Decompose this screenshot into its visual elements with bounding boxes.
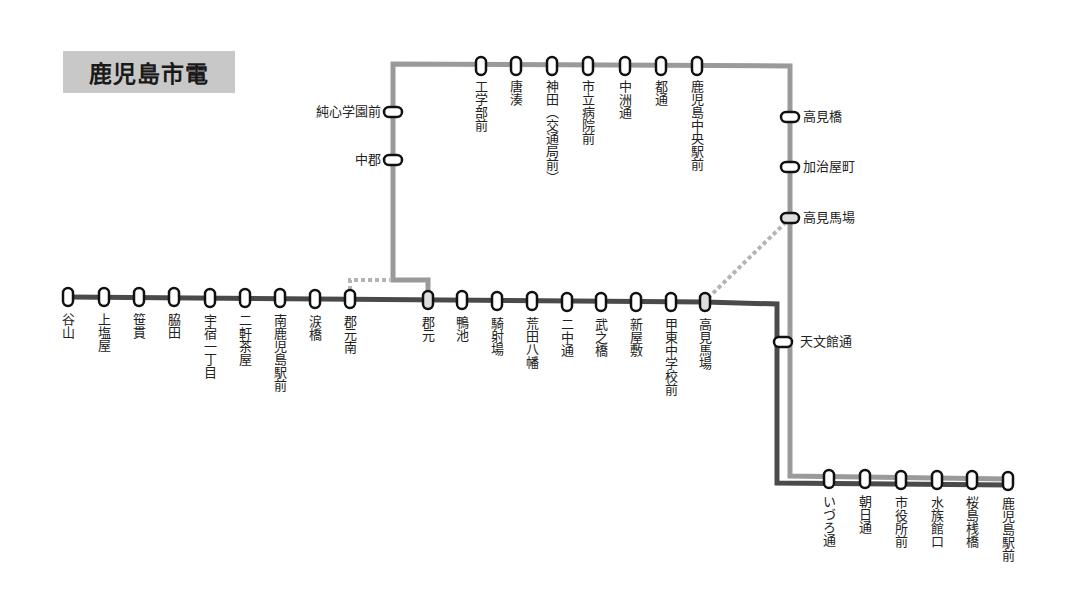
transfer-link-korimoto: [350, 280, 390, 290]
station-label[interactable]: 工学部前: [473, 80, 488, 132]
station-marker[interactable]: [562, 293, 572, 311]
station-marker[interactable]: [476, 57, 486, 75]
station-marker[interactable]: [547, 57, 557, 75]
station-label[interactable]: 市役所前: [893, 496, 908, 548]
station-marker[interactable]: [63, 288, 73, 306]
station-label[interactable]: 騎射場: [489, 317, 504, 356]
station-marker[interactable]: [824, 470, 834, 488]
station-label[interactable]: 中洲通: [617, 80, 632, 119]
station-marker[interactable]: [656, 57, 666, 75]
station-marker[interactable]: [692, 57, 702, 75]
station-marker[interactable]: [345, 290, 355, 308]
station-marker[interactable]: [511, 57, 521, 75]
station-label[interactable]: 南鹿児島駅前: [272, 314, 287, 392]
station-marker[interactable]: [781, 162, 799, 172]
station-label[interactable]: 新屋敷: [628, 318, 643, 357]
station-marker[interactable]: [631, 293, 641, 311]
station-label[interactable]: 荒田八幡: [524, 317, 539, 369]
station-label[interactable]: 水族館口: [929, 496, 944, 548]
transfer-link-takamibaba: [708, 222, 786, 298]
station-label[interactable]: 桜島桟橋: [964, 496, 979, 548]
station-marker[interactable]: [527, 292, 537, 310]
station-label[interactable]: 朝日通: [857, 495, 872, 534]
station-label[interactable]: 武之橋: [593, 318, 608, 357]
station-marker[interactable]: [932, 471, 942, 489]
station-marker[interactable]: [774, 337, 792, 347]
station-marker[interactable]: [860, 470, 870, 488]
station-marker[interactable]: [169, 288, 179, 306]
station-marker[interactable]: [384, 107, 402, 117]
station-label[interactable]: 脇田: [166, 313, 181, 339]
station-label[interactable]: 谷山: [60, 313, 75, 339]
station-label[interactable]: 上塩屋: [96, 313, 111, 352]
station-marker[interactable]: [583, 57, 593, 75]
station-label[interactable]: 宇宿一丁目: [202, 314, 217, 379]
station-label[interactable]: 涙橋: [307, 315, 322, 341]
station-label[interactable]: 郡元南: [342, 315, 357, 354]
station-marker[interactable]: [423, 291, 433, 309]
station-marker[interactable]: [134, 288, 144, 306]
station-label[interactable]: 鹿児島中央駅前: [689, 80, 704, 171]
station-marker[interactable]: [596, 293, 606, 311]
station-marker[interactable]: [240, 289, 250, 307]
station-label[interactable]: 二中通: [559, 318, 574, 357]
station-label[interactable]: 甲東中学校前: [663, 318, 678, 396]
station-marker[interactable]: [620, 57, 630, 75]
station-marker[interactable]: [99, 288, 109, 306]
station-label[interactable]: 天文館通: [800, 334, 852, 349]
station-marker[interactable]: [781, 213, 799, 223]
station-marker[interactable]: [781, 112, 799, 122]
station-marker[interactable]: [666, 293, 676, 311]
station-label[interactable]: 純心学園前: [316, 104, 381, 119]
station-marker[interactable]: [700, 293, 710, 311]
station-marker[interactable]: [310, 290, 320, 308]
station-label[interactable]: 鹿児島駅前: [1000, 497, 1015, 562]
station-marker[interactable]: [1003, 472, 1013, 490]
station-label[interactable]: 鴨池: [454, 316, 469, 342]
station-marker[interactable]: [967, 471, 977, 489]
station-label[interactable]: 中郡: [355, 152, 381, 167]
station-label[interactable]: 神田（交通局前）: [544, 80, 559, 184]
station-label[interactable]: 高見馬場: [697, 318, 712, 370]
station-label[interactable]: いづろ通: [821, 495, 836, 547]
station-label[interactable]: 郡元: [420, 316, 435, 342]
station-marker[interactable]: [457, 291, 467, 309]
station-label[interactable]: 市立病院前: [580, 80, 595, 145]
station-marker[interactable]: [275, 289, 285, 307]
station-marker[interactable]: [384, 155, 402, 165]
station-marker[interactable]: [492, 292, 502, 310]
station-label[interactable]: 二軒茶屋: [237, 314, 252, 366]
station-label[interactable]: 笹貫: [131, 313, 146, 339]
station-label[interactable]: 都通: [653, 80, 668, 106]
station-marker[interactable]: [205, 289, 215, 307]
station-label[interactable]: 唐湊: [508, 80, 523, 106]
station-label[interactable]: 高見橋: [803, 109, 842, 124]
station-label[interactable]: 高見馬場: [803, 210, 855, 225]
station-marker[interactable]: [896, 471, 906, 489]
station-label[interactable]: 加治屋町: [803, 159, 855, 174]
